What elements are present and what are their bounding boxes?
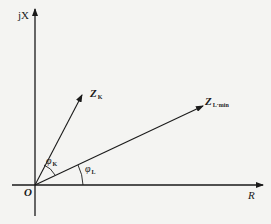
vector-zk xyxy=(35,95,82,185)
vector-zlmin xyxy=(35,106,203,185)
angle-arc-phi-l xyxy=(78,165,83,185)
horizontal-axis-label: R xyxy=(248,189,255,201)
impedance-phasor-diagram: jX R O ZK ZL·min φK φL xyxy=(0,0,271,224)
origin-label: O xyxy=(24,186,32,198)
vector-zk-label: ZK xyxy=(90,87,102,100)
angle-phi-k-label: φK xyxy=(46,155,57,167)
vertical-axis-label: jX xyxy=(18,9,29,21)
angle-phi-l-label: φL xyxy=(85,163,96,175)
diagram-graphics xyxy=(0,0,271,224)
vector-zlmin-label: ZL·min xyxy=(205,95,229,108)
